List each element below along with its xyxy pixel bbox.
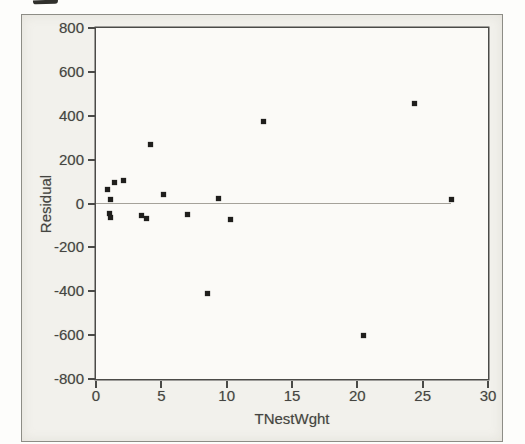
y-axis-tick-mark — [88, 203, 95, 205]
y-axis-tick-label: -200 — [30, 238, 84, 256]
data-point — [185, 212, 190, 217]
data-point — [148, 142, 153, 147]
zero-reference-line — [96, 203, 451, 204]
x-axis-tick-label: 25 — [401, 387, 445, 405]
x-axis-tick-label: 15 — [270, 387, 314, 405]
y-axis-tick-label: -400 — [30, 282, 84, 300]
data-point — [144, 216, 149, 221]
data-point — [228, 217, 233, 222]
x-axis-tick-label: 30 — [466, 387, 510, 405]
data-point — [108, 215, 113, 220]
y-axis-tick-label: -600 — [30, 326, 84, 344]
data-point — [105, 187, 110, 192]
data-point — [412, 101, 417, 106]
y-axis-tick-mark — [88, 159, 95, 161]
data-point — [205, 291, 210, 296]
y-axis-tick-mark — [88, 246, 95, 248]
y-axis-tick-label: 400 — [30, 107, 84, 125]
x-axis-tick-label: 10 — [205, 387, 249, 405]
plot-area: 8006004002000-200-400-600-80005101520253… — [96, 28, 488, 379]
x-axis-tick-label: 5 — [139, 387, 183, 405]
data-point — [216, 196, 221, 201]
x-axis-tick-label: 20 — [335, 387, 379, 405]
data-point — [121, 178, 126, 183]
data-point — [112, 180, 117, 185]
y-axis-tick-label: -800 — [30, 370, 84, 388]
data-point — [261, 119, 266, 124]
scanned-figure-page: Residual TNestWght 8006004002000-200-400… — [0, 0, 525, 444]
y-axis-tick-label: 200 — [30, 151, 84, 169]
cropped-text-fragment — [33, 0, 58, 4]
y-axis-tick-label: 600 — [30, 63, 84, 81]
y-axis-tick-mark — [88, 115, 95, 117]
y-axis-tick-mark — [88, 378, 95, 380]
y-axis-tick-mark — [88, 71, 95, 73]
data-point — [361, 333, 366, 338]
y-axis-tick-mark — [88, 290, 95, 292]
y-axis-tick-label: 800 — [30, 19, 84, 37]
data-point — [161, 192, 166, 197]
x-axis-title: TNestWght — [254, 410, 329, 427]
y-axis-tick-mark — [88, 27, 95, 29]
y-axis-tick-mark — [88, 334, 95, 336]
x-axis-tick-label: 0 — [74, 387, 118, 405]
y-axis-tick-label: 0 — [30, 195, 84, 213]
data-point — [108, 197, 113, 202]
data-point — [449, 197, 454, 202]
